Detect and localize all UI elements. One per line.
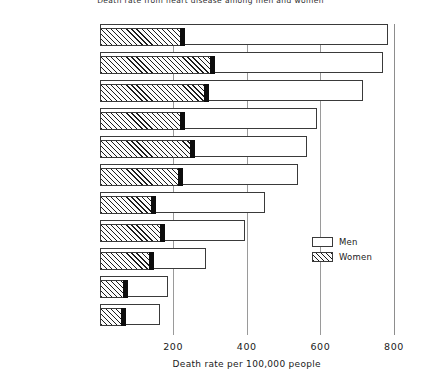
bar-women <box>100 168 181 186</box>
legend-item: Men <box>312 236 372 248</box>
bar-women-end-cap <box>149 252 154 270</box>
bar-women-end-cap <box>210 56 215 74</box>
x-tick-label: 200 <box>163 341 183 352</box>
bar-group <box>100 108 395 132</box>
legend-label: Men <box>339 237 358 247</box>
bar-women-end-cap <box>151 196 156 214</box>
bar-group <box>100 24 395 48</box>
legend-swatch-men <box>312 237 333 247</box>
legend-item: Women <box>312 251 372 263</box>
bar-group <box>100 276 395 300</box>
bar-women <box>100 140 192 158</box>
bar-group <box>100 52 395 76</box>
bar-group <box>100 80 395 104</box>
bar-women-end-cap <box>178 168 183 186</box>
legend-label: Women <box>339 252 372 262</box>
chart-figure: Death rate from heart disease among men … <box>0 0 421 386</box>
bar-women <box>100 112 183 130</box>
x-tick-label: 600 <box>310 341 330 352</box>
bar-women-end-cap <box>121 308 126 326</box>
x-tick-label: 400 <box>237 341 257 352</box>
bar-group <box>100 164 395 188</box>
bar-women-end-cap <box>180 112 185 130</box>
bar-women <box>100 84 207 102</box>
bar-group <box>100 304 395 328</box>
chart-title: Death rate from heart disease among men … <box>0 0 421 5</box>
plot-area: 200400600800Death rate per 100,000 peopl… <box>100 24 395 335</box>
bar-women <box>100 280 126 298</box>
bar-women-end-cap <box>180 28 185 46</box>
bar-women <box>100 56 212 74</box>
x-axis-label: Death rate per 100,000 people <box>100 359 395 369</box>
bar-group <box>100 192 395 216</box>
bar-women <box>100 196 153 214</box>
bar-women-end-cap <box>123 280 128 298</box>
bar-women <box>100 252 152 270</box>
bar-women <box>100 308 124 326</box>
bar-women-end-cap <box>160 224 165 242</box>
x-tick-label: 800 <box>384 341 404 352</box>
bar-women <box>100 28 183 46</box>
chart-legend: MenWomen <box>312 236 372 266</box>
legend-swatch-women <box>312 252 333 262</box>
bar-women-end-cap <box>190 140 195 158</box>
axis-right-boundary <box>394 24 395 335</box>
bar-women <box>100 224 163 242</box>
bar-group <box>100 136 395 160</box>
bar-women-end-cap <box>204 84 209 102</box>
